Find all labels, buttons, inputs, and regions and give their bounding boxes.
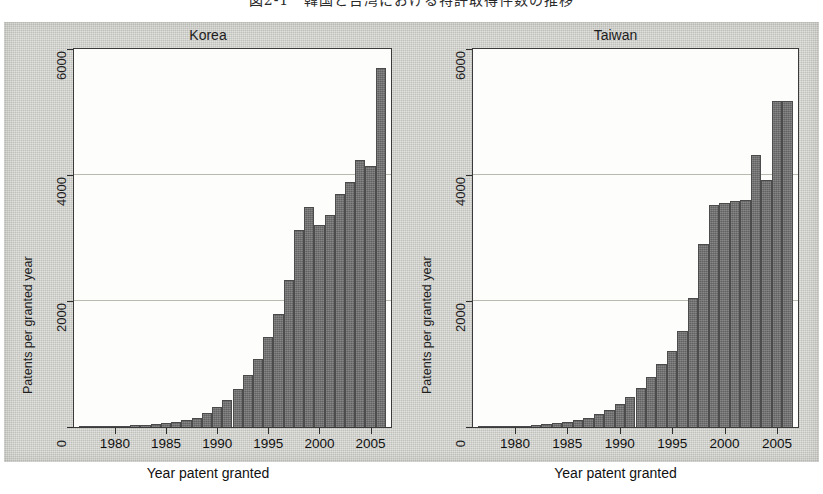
y-tick-label: 6000 [54,49,69,83]
x-tick-label: 1980 [500,436,530,451]
bar [636,388,646,427]
bar [100,426,110,427]
bar [151,424,161,427]
x-tick [620,428,621,434]
bar [161,423,171,427]
x-tick [777,428,778,434]
panel-title-korea: Korea [4,27,448,43]
bar [489,426,499,427]
bar [192,418,202,427]
y-axis-title-korea: Patents per granted year [21,256,35,394]
bar [79,426,89,427]
x-tick-label: 2005 [762,436,792,451]
bar [531,425,541,427]
x-axis-title-taiwan: Year patent granted [412,465,823,481]
bar [562,422,572,427]
y-tick-label: 6000 [453,49,468,83]
x-tick [166,428,167,434]
bar [646,377,656,427]
figure-caption: 図2-1 韓国と台湾における特許取得件数の推移 [0,0,823,9]
bar [541,424,551,427]
bar [740,200,750,427]
bar [345,182,355,427]
bar [594,414,604,427]
bar [751,155,761,427]
x-tick-label: 1995 [657,436,687,451]
bar [243,375,253,427]
bar [510,426,520,427]
plot-frame-taiwan [472,48,799,428]
y-axis-title-taiwan: Patents per granted year [420,256,434,394]
bar [583,418,593,427]
x-tick-label: 2000 [304,436,334,451]
y-tick-label: 2000 [54,301,69,335]
bar [335,194,345,427]
bar [499,426,509,427]
bar [120,426,130,427]
y-tick-label: 2000 [453,301,468,335]
x-tick-label: 1995 [253,436,283,451]
figure-caption-strip: 図2-1 韓国と台湾における特許取得件数の推移 [0,0,823,22]
bar [709,205,719,427]
x-tick [217,428,218,434]
bar [761,180,771,427]
bar [222,400,232,427]
plot-frame-korea [73,48,392,428]
bar [304,207,314,427]
x-tick [319,428,320,434]
bar [688,298,698,427]
x-tick [672,428,673,434]
bar [478,426,488,427]
bar [294,230,304,427]
plot-area-korea [74,49,391,427]
chart-panel-korea: Korea 0200040006000Patents per granted y… [4,22,412,462]
bar [284,280,294,427]
bar [604,410,614,427]
bar [698,244,708,427]
bar [273,314,283,427]
x-tick [515,428,516,434]
x-tick [725,428,726,434]
x-tick-label: 1985 [151,436,181,451]
bar [365,166,375,427]
bar [130,425,140,427]
x-tick [268,428,269,434]
bar [263,337,273,427]
x-tick-label: 1985 [552,436,582,451]
x-tick-label: 1980 [100,436,130,451]
bar [772,101,782,427]
bar [376,68,386,427]
bar [181,420,191,427]
x-tick [371,428,372,434]
bar [110,426,120,427]
panel-title-taiwan: Taiwan [412,27,823,43]
bar [573,420,583,427]
x-tick-label: 2000 [710,436,740,451]
bar [89,426,99,427]
bar [656,364,666,427]
bar [355,160,365,427]
bar [719,203,729,427]
plot-area-taiwan [473,49,798,427]
x-tick [115,428,116,434]
x-axis-title-korea: Year patent granted [4,465,442,481]
bar [314,225,324,427]
bar [552,423,562,427]
bar [677,331,687,427]
bar [667,351,677,427]
bar [730,201,740,427]
bar [202,413,212,427]
y-tick-label: 4000 [453,175,468,209]
bar [253,359,263,427]
bar [325,215,335,427]
bar [140,425,150,427]
x-tick-label: 2005 [356,436,386,451]
bar [212,407,222,427]
bar [625,397,635,427]
bar [615,404,625,427]
figure-panel: Korea 0200040006000Patents per granted y… [4,22,819,462]
y-tick-label: 4000 [54,175,69,209]
chart-panel-taiwan: Taiwan 0200040006000Patents per granted … [412,22,819,462]
bar [520,426,530,427]
bar [171,422,181,427]
